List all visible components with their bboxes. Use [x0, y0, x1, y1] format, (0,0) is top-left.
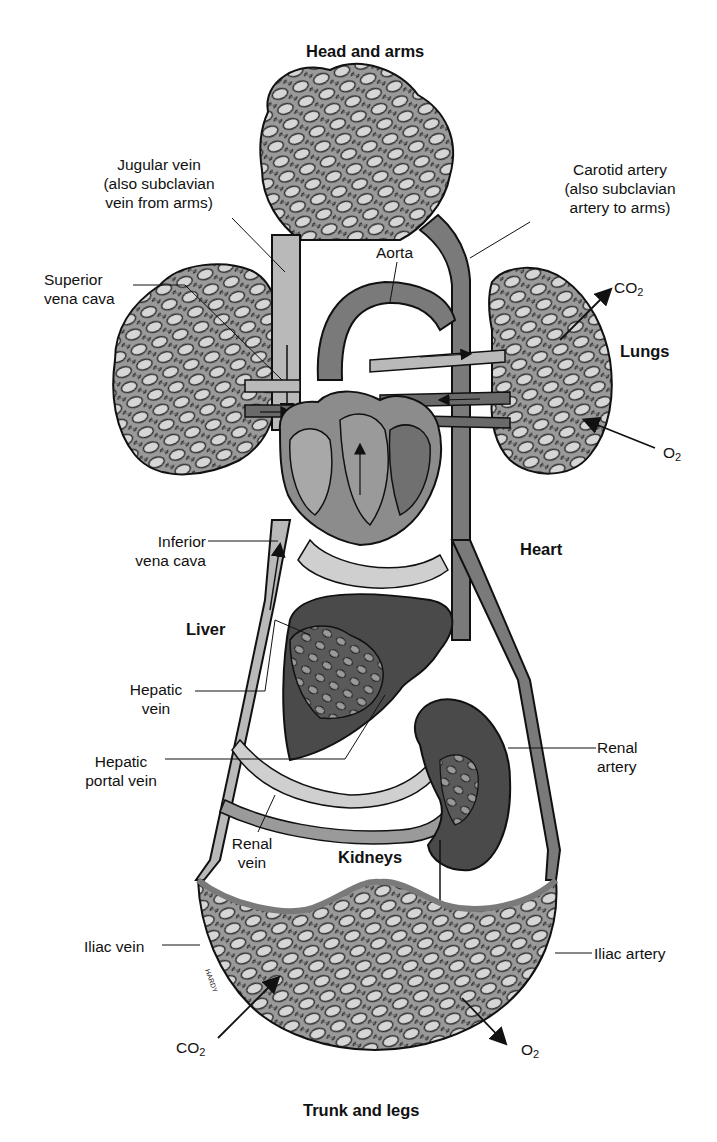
label-hepatic-portal-vein: Hepatic portal vein — [74, 752, 168, 790]
right-lung-capillary-bed — [489, 268, 612, 474]
label-superior-vena-cava: Superior vena cava — [44, 270, 115, 308]
label-carotid-artery: Carotid artery (also subclavian artery t… — [540, 160, 700, 217]
label-heart: Heart — [520, 540, 562, 559]
label-o2-tissue: O2 — [521, 1040, 539, 1059]
label-co2-lungs: CO2 — [614, 278, 643, 297]
trunk-legs-capillary-bed: HARDY — [198, 880, 557, 1050]
label-kidneys: Kidneys — [338, 848, 402, 867]
label-o2-lungs: O2 — [663, 443, 681, 462]
label-co2-tissue: CO2 — [176, 1038, 205, 1057]
label-renal-vein: Renal vein — [226, 834, 278, 872]
venous-column — [272, 235, 300, 430]
left-lung-capillary-bed — [113, 264, 275, 474]
label-iliac-artery: Iliac artery — [594, 944, 666, 963]
label-lungs: Lungs — [620, 342, 670, 361]
head-arms-capillary-bed — [260, 64, 453, 240]
label-renal-artery: Renal artery — [597, 738, 638, 776]
label-hepatic-vein: Hepatic vein — [118, 680, 194, 718]
label-inferior-vena-cava: Inferior vena cava — [120, 532, 206, 570]
label-liver: Liver — [186, 620, 225, 639]
label-iliac-vein: Iliac vein — [84, 937, 144, 956]
label-jugular-vein: Jugular vein (also subclavian vein from … — [84, 155, 234, 212]
label-aorta: Aorta — [376, 243, 413, 262]
label-head-and-arms: Head and arms — [306, 42, 424, 61]
heart — [280, 392, 441, 545]
artist-signature: HARDY — [204, 968, 219, 994]
label-trunk-and-legs: Trunk and legs — [303, 1101, 419, 1120]
hepatic-loop — [298, 540, 448, 588]
